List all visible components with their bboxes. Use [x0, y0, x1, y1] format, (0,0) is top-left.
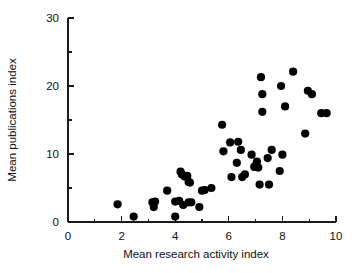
y-axis-title: Mean publications index: [6, 58, 18, 182]
plot-canvas: 01020300246810 Mean research activity in…: [0, 0, 356, 273]
data-point: [278, 151, 286, 159]
x-tick-label: 6: [226, 230, 232, 242]
data-point: [233, 159, 241, 167]
data-point: [219, 147, 227, 155]
data-point: [264, 154, 272, 162]
x-tick-label: 4: [172, 230, 179, 242]
x-tick-label: 0: [65, 230, 71, 242]
x-tick-label: 10: [330, 230, 343, 242]
data-point: [241, 170, 249, 178]
data-point: [281, 102, 289, 110]
data-point: [187, 198, 195, 206]
x-axis-title: Mean research activity index: [123, 248, 269, 260]
data-point: [234, 138, 242, 146]
y-tick-label: 30: [46, 12, 59, 24]
scatter-plot-figure: 01020300246810 Mean research activity in…: [0, 0, 356, 273]
y-tick-label: 10: [46, 148, 59, 160]
data-point: [289, 68, 297, 76]
data-point: [195, 203, 203, 211]
data-point: [113, 200, 121, 208]
data-point: [247, 151, 255, 159]
data-point: [186, 178, 194, 186]
data-point: [277, 82, 285, 90]
data-point: [150, 203, 158, 211]
data-point: [227, 173, 235, 181]
y-tick-label: 20: [46, 80, 59, 92]
data-point: [226, 138, 234, 146]
x-tick-label: 8: [279, 230, 285, 242]
data-point: [218, 121, 226, 129]
data-point: [163, 187, 171, 195]
data-point: [308, 90, 316, 98]
data-point: [256, 181, 264, 189]
data-point: [258, 108, 266, 116]
data-point: [171, 212, 179, 220]
x-tick-label: 2: [118, 230, 124, 242]
data-point: [130, 212, 138, 220]
data-point: [237, 146, 245, 154]
data-point: [301, 130, 309, 138]
data-point: [323, 109, 331, 117]
y-tick-label: 0: [53, 216, 59, 228]
data-point: [258, 90, 266, 98]
data-point: [254, 164, 262, 172]
data-point: [265, 181, 273, 189]
data-point: [268, 146, 276, 154]
data-point: [276, 167, 284, 175]
data-point: [207, 184, 215, 192]
data-points-group: [113, 68, 330, 221]
tick-labels-group: 01020300246810: [46, 12, 342, 242]
data-point: [257, 73, 265, 81]
